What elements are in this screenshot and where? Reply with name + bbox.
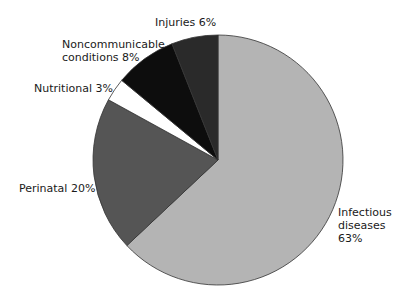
label-infectious: Infectious diseases 63% xyxy=(338,206,392,245)
label-noncommunicable: Noncommunicable conditions 8% xyxy=(62,38,165,64)
label-nutritional: Nutritional 3% xyxy=(34,82,113,95)
label-injuries: Injuries 6% xyxy=(155,16,216,29)
pie-chart xyxy=(0,0,405,300)
label-perinatal: Perinatal 20% xyxy=(19,182,95,195)
